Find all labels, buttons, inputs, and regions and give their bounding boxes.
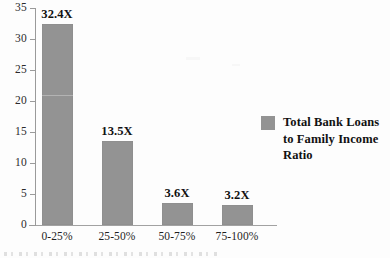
bar [222,205,253,225]
scan-speck [232,64,240,66]
x-axis-category-label: 75-100% [207,230,267,242]
x-axis-category-label: 50-75% [147,230,207,242]
y-axis-tick-label: 10 [0,157,27,169]
bar-value-label: 3.6X [155,186,199,201]
x-axis-category-label: 0-25% [27,230,87,242]
bar-value-label: 3.2X [215,188,259,203]
y-axis-tick-label: 5 [0,188,27,200]
bar [162,203,193,225]
x-axis-baseline [29,225,277,226]
legend-swatch-icon [261,116,275,130]
legend: Total Bank Loans to Family Income Ratio [261,114,379,164]
legend-label: Total Bank Loans to Family Income Ratio [283,114,379,164]
bar-value-label: 32.4X [35,7,79,22]
bar-value-label: 13.5X [95,124,139,139]
y-axis-tick [30,225,36,226]
bar [42,24,73,225]
y-axis-tick-label: 15 [0,126,27,138]
bar-chart: 05101520253035 32.4X13.5X3.6X3.2X 0-25%2… [0,0,390,258]
y-axis-tick-label: 20 [0,95,27,107]
scan-streak [42,95,73,96]
scan-artifact [4,252,219,256]
y-axis-tick-label: 35 [0,2,27,14]
y-axis-tick-label: 0 [0,219,27,231]
y-axis-tick-label: 30 [0,33,27,45]
bar [102,141,133,225]
y-axis-tick-label: 25 [0,64,27,76]
scan-speck [186,57,200,60]
bars-layer: 32.4X13.5X3.6X3.2X [36,8,277,225]
x-axis-category-label: 25-50% [87,230,147,242]
